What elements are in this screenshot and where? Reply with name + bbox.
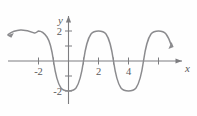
x-axis-label: x (184, 62, 190, 74)
x-tick-label-4: 4 (126, 66, 132, 77)
coordinate-plane: y x -2 2 4 2 -2 (0, 0, 197, 116)
x-axis-arrow-icon (176, 58, 183, 63)
x-tick-label--2: -2 (34, 66, 43, 77)
y-tick-label-2: 2 (57, 26, 62, 37)
y-tick-label--2: -2 (53, 86, 62, 97)
y-axis-arrow-icon (66, 16, 71, 23)
graph-figure: y x -2 2 4 2 -2 (0, 0, 197, 116)
x-tick-label-2: 2 (96, 66, 101, 77)
y-axis-label: y (57, 14, 63, 26)
